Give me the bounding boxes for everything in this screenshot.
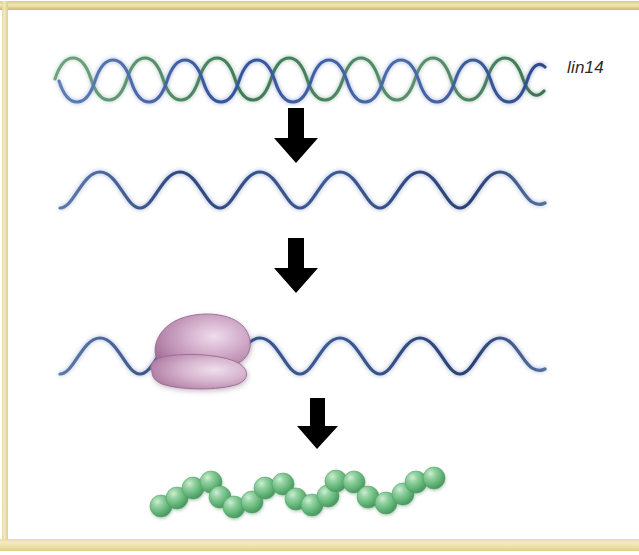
mrna-wave-line bbox=[60, 172, 545, 208]
figure-page: lin14 bbox=[0, 0, 639, 555]
gene-label-lin14: lin14 bbox=[567, 58, 604, 78]
arrow-down-icon bbox=[274, 108, 318, 163]
frame-bar-top bbox=[0, 1, 639, 10]
frame-bar-bottom bbox=[0, 539, 639, 551]
amino-acid-beads bbox=[150, 467, 445, 518]
mrna-wave-line-translated bbox=[60, 338, 545, 374]
ribosome bbox=[151, 314, 250, 389]
arrow-down-icon bbox=[274, 238, 318, 293]
arrow-translation bbox=[290, 398, 346, 450]
polypeptide-chain bbox=[150, 458, 450, 528]
mrna-strand bbox=[60, 160, 545, 222]
dna-strand-green bbox=[55, 58, 544, 100]
dna-double-helix bbox=[55, 35, 545, 97]
figure-canvas: lin14 bbox=[0, 10, 639, 539]
arrow-transcription bbox=[266, 108, 326, 164]
arrow-processing bbox=[266, 238, 326, 294]
translation-complex bbox=[60, 322, 545, 384]
arrow-down-icon bbox=[297, 398, 338, 449]
amino-acid-bead bbox=[423, 467, 445, 489]
